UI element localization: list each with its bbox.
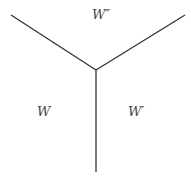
tripod-diagram — [0, 0, 191, 180]
right-branch-line — [96, 15, 185, 70]
label-left-region: W — [37, 104, 50, 119]
label-right-region: W′ — [128, 104, 144, 119]
label-top-region: W″ — [92, 7, 110, 22]
left-branch-line — [11, 15, 96, 70]
